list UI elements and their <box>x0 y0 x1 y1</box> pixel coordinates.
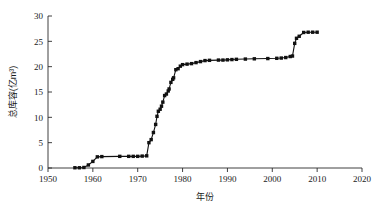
data-point <box>221 58 224 61</box>
data-point <box>298 35 301 38</box>
x-tick-label: 1970 <box>129 174 148 184</box>
y-tick-label: 5 <box>39 138 44 148</box>
data-point <box>155 115 158 118</box>
data-point <box>141 154 144 157</box>
y-axis-title: 总库容(亿m³) <box>7 66 18 119</box>
data-point <box>127 155 130 158</box>
data-point <box>306 31 309 34</box>
x-tick-label: 2000 <box>263 174 282 184</box>
data-point <box>78 166 81 169</box>
x-axis-title: 年份 <box>196 191 214 202</box>
x-tick-label: 1960 <box>84 174 103 184</box>
data-point <box>266 57 269 60</box>
x-tick-label: 1980 <box>174 174 193 184</box>
data-point <box>132 155 135 158</box>
data-point <box>235 58 238 61</box>
data-point <box>280 56 283 59</box>
data-point <box>172 76 175 79</box>
data-point <box>165 92 168 95</box>
data-point <box>96 155 99 158</box>
data-point <box>91 160 94 163</box>
data-point <box>194 61 197 64</box>
data-point <box>118 155 121 158</box>
data-point <box>302 31 305 34</box>
data-point <box>167 87 170 90</box>
data-point <box>291 54 294 57</box>
data-point <box>185 62 188 65</box>
data-point <box>275 57 278 60</box>
data-point <box>136 155 139 158</box>
data-point <box>147 141 150 144</box>
data-point <box>190 62 193 65</box>
data-point <box>253 57 256 60</box>
data-point <box>87 163 90 166</box>
data-point <box>217 58 220 61</box>
y-tick-label: 15 <box>34 87 44 97</box>
data-point <box>208 59 211 62</box>
data-point <box>82 166 85 169</box>
data-point <box>169 81 172 84</box>
x-tick-label: 1990 <box>218 174 237 184</box>
y-tick-label: 20 <box>34 62 44 72</box>
data-point <box>152 131 155 134</box>
data-point <box>203 59 206 62</box>
data-point <box>311 31 314 34</box>
y-tick-label: 0 <box>39 163 44 173</box>
y-tick-label: 30 <box>34 11 44 21</box>
reservoir-capacity-line-chart: 1950196019701980199020002010202005101520… <box>0 0 380 216</box>
y-tick-label: 10 <box>34 113 44 123</box>
data-point <box>100 155 103 158</box>
y-tick-label: 25 <box>34 37 44 47</box>
data-point <box>145 154 148 157</box>
data-point <box>293 42 296 45</box>
data-point <box>315 31 318 34</box>
chart-figure: 1950196019701980199020002010202005101520… <box>0 0 380 216</box>
data-point <box>154 123 157 126</box>
data-point <box>160 104 163 107</box>
data-point <box>149 138 152 141</box>
data-point <box>158 108 161 111</box>
series-line-总库容 <box>75 32 317 168</box>
x-tick-label: 2010 <box>308 174 327 184</box>
data-point <box>244 57 247 60</box>
data-point <box>284 56 287 59</box>
x-tick-label: 2020 <box>353 174 372 184</box>
data-point <box>226 58 229 61</box>
data-point <box>161 100 164 103</box>
x-tick-label: 1950 <box>39 174 58 184</box>
data-point <box>199 60 202 63</box>
data-point <box>181 63 184 66</box>
data-point <box>73 166 76 169</box>
data-point <box>230 58 233 61</box>
